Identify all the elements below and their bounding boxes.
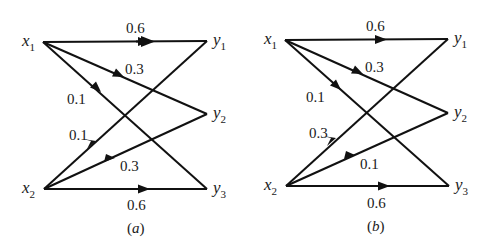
arrow-icon: [90, 82, 101, 93]
prob-x1-y2: 0.3: [365, 59, 384, 75]
caption-a: (a): [127, 220, 145, 237]
edge-x2-y2: [286, 113, 448, 186]
prob-x1-y3: 0.1: [306, 89, 325, 105]
node-y3: y3: [453, 175, 469, 197]
edge-x1-y1: [43, 41, 207, 42]
edge-x2-y2: [44, 114, 207, 189]
node-y3: y3: [211, 178, 227, 200]
channel-diagrams: x1 x2 y1 y2 y3 0.6 0.3 0.1 0.1 0.3 0.6 (…: [0, 0, 493, 249]
node-y1: y1: [452, 28, 467, 50]
prob-x1-y2: 0.3: [125, 61, 144, 77]
node-x2: x2: [21, 178, 35, 200]
prob-x1-y3: 0.1: [67, 91, 86, 107]
arrow-icon: [104, 154, 115, 162]
prob-x1-y1: 0.6: [366, 18, 385, 34]
prob-x1-y1: 0.6: [126, 20, 145, 36]
node-y1: y1: [211, 30, 226, 52]
edge-x1-y1: [285, 39, 448, 40]
diagram-a: x1 x2 y1 y2 y3 0.6 0.3 0.1 0.1 0.3 0.6 (…: [21, 20, 227, 237]
diagram-b: x1 x2 y1 y2 y3 0.6 0.3 0.1 0.3 0.1 0.6 (…: [263, 18, 469, 235]
node-y2: y2: [452, 102, 467, 124]
arrow-icon: [378, 182, 390, 191]
caption-b: (b): [367, 218, 385, 235]
prob-x2-y2: 0.3: [120, 158, 139, 174]
node-y2: y2: [211, 103, 226, 125]
prob-x2-y1: 0.3: [309, 125, 328, 141]
arrow-icon: [138, 185, 150, 194]
node-x1: x1: [263, 29, 277, 51]
arrow-icon: [375, 35, 387, 44]
arrow-icon: [138, 37, 150, 46]
prob-x2-y3: 0.6: [127, 197, 146, 213]
node-x2: x2: [263, 175, 277, 197]
prob-x2-y2: 0.1: [360, 156, 379, 172]
prob-x2-y1: 0.1: [69, 127, 88, 143]
prob-x2-y3: 0.6: [367, 195, 386, 211]
node-x1: x1: [21, 31, 35, 53]
